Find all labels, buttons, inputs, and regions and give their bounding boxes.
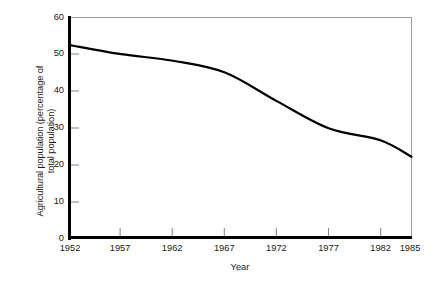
- x-axis-tick-labels: 1952 1957 1962 1967 1972 1977 1982 1985: [0, 243, 443, 257]
- x-tick-label-1962: 1962: [162, 243, 183, 254]
- x-tick-label-1977: 1977: [318, 243, 339, 254]
- x-tick-label-1972: 1972: [266, 243, 287, 254]
- x-tick-label-1982: 1982: [370, 243, 391, 254]
- x-tick-label-1967: 1967: [214, 243, 235, 254]
- plot-background: [68, 17, 412, 239]
- chart-figure: Agricultural population (percentage of t…: [0, 0, 443, 289]
- x-tick-label-1957: 1957: [110, 243, 131, 254]
- x-tick-label-1952: 1952: [60, 243, 81, 254]
- x-tick-label-1985: 1985: [400, 243, 421, 254]
- x-axis-title: Year: [68, 262, 412, 273]
